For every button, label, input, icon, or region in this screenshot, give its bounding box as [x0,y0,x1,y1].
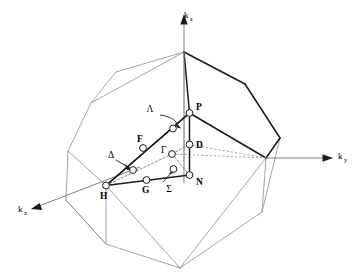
label-gamma: Γ [161,145,167,155]
label-P: P [196,102,202,112]
point-labels: P D N F G H Γ [100,102,203,201]
axis-kx [31,167,140,210]
node-delta [130,167,137,174]
symmetry-line-lambda-marker: Λ [147,104,182,129]
node-gamma [169,151,176,158]
axis-kz-symbol: k [184,10,189,20]
node-D [186,141,193,148]
brillouin-zone-figure: k z k y k x Λ Δ [0,0,360,273]
node-lambda [170,125,177,132]
node-F [140,145,147,152]
axis-ky-subscript: y [344,156,348,163]
node-P [186,110,193,117]
axis-kz-subscript: z [190,15,193,22]
diagram-canvas: k z k y k x Λ Δ [0,0,360,273]
node-sigma [170,166,177,173]
symmetry-line-delta-label: Δ [108,150,114,160]
node-G [143,177,150,184]
label-D: D [196,140,203,150]
label-N: N [196,177,203,187]
bz-back-edges [66,52,280,268]
axis-label-kx: k x [18,204,28,216]
label-F: F [137,134,143,144]
label-H: H [100,191,108,201]
axis-label-ky: k y [338,151,348,163]
node-N [186,172,193,179]
axis-kx-symbol: k [18,204,23,214]
symmetry-line-lambda-label: Λ [147,104,154,114]
axis-ky-symbol: k [338,151,343,161]
label-G: G [142,185,150,195]
symmetry-line-sigma-label: Σ [166,184,172,194]
axis-kx-subscript: x [24,209,28,216]
node-H [103,182,110,189]
symmetry-line-delta-marker: Δ [108,150,133,170]
